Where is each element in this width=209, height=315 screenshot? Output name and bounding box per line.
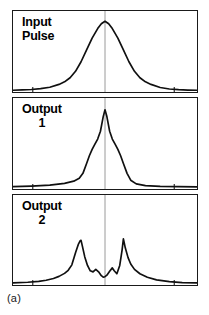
- chart-panel-output-1: Output1: [12, 97, 198, 190]
- chart-panel-output-2: Output2: [12, 194, 198, 286]
- panel-subtitle-output-1: 1: [22, 117, 62, 131]
- panel-label-output-2: Output2: [22, 200, 62, 227]
- panel-title-output-1: Output: [22, 102, 62, 116]
- panel-title-input: Input: [22, 15, 52, 29]
- figure-container: InputPulse Output1 Output2 (a): [0, 0, 209, 315]
- figure-caption: (a): [7, 292, 21, 304]
- panel-subtitle-output-2: 2: [22, 214, 62, 228]
- chart-panel-input-pulse: InputPulse: [12, 10, 198, 93]
- panel-title-output-2: Output: [22, 199, 62, 213]
- panel-label-output-1: Output1: [22, 103, 62, 130]
- panel-subtitle-input: Pulse: [22, 30, 54, 44]
- panel-label-input-pulse: InputPulse: [22, 16, 54, 43]
